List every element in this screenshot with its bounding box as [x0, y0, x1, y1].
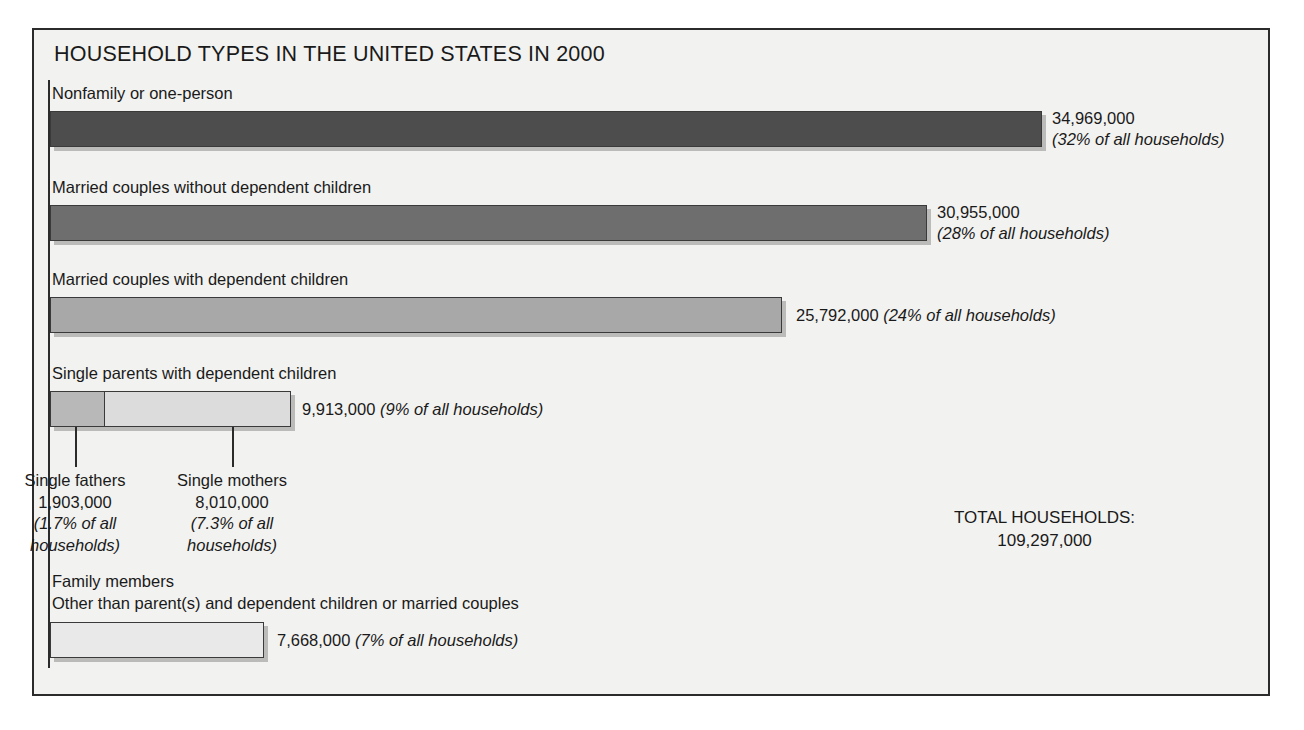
sub-label-single-fathers-percent-2: households) [0, 535, 150, 557]
bar-segment-single-mothers [105, 392, 290, 426]
bar-value-married-with-children: 25,792,000 (24% of all households) [796, 305, 1056, 326]
total-households-value: 109,297,000 [954, 529, 1135, 552]
bar-value-percent-single-parents: (9% of all households) [380, 400, 543, 418]
bar-single-parents [50, 391, 291, 427]
sub-label-single-mothers-value: 8,010,000 [157, 492, 307, 514]
bar-value-number-single-parents: 9,913,000 [302, 400, 375, 418]
sub-label-single-mothers-percent-1: (7.3% of all [157, 513, 307, 535]
leader-line-single-fathers [75, 427, 77, 467]
bar-value-percent-nonfamily: (32% of all households) [1052, 129, 1224, 150]
sub-label-single-fathers-value: 1,903,000 [0, 492, 150, 514]
bar-value-number-married-with-children: 25,792,000 [796, 306, 879, 324]
leader-line-single-mothers [232, 427, 234, 467]
bar-label-single-parents: Single parents with dependent children [52, 364, 336, 383]
page-title: HOUSEHOLD TYPES IN THE UNITED STATES IN … [54, 42, 605, 67]
bar-value-percent-family-members: (7% of all households) [355, 631, 518, 649]
bar-label-family-members: Family members Other than parent(s) and … [52, 570, 519, 614]
bar-value-percent-married-without-children: (28% of all households) [937, 223, 1109, 244]
bar-married-with-children [50, 297, 782, 333]
sub-label-single-mothers: Single mothers 8,010,000 (7.3% of all ho… [157, 470, 307, 556]
sub-label-single-fathers-percent-1: (1.7% of all [0, 513, 150, 535]
bar-family-members [50, 622, 264, 658]
bar-nonfamily [50, 111, 1042, 147]
bar-value-number-family-members: 7,668,000 [277, 631, 350, 649]
bar-value-family-members: 7,668,000 (7% of all households) [277, 630, 518, 651]
bar-label-family-members-line-2: Other than parent(s) and dependent child… [52, 592, 519, 614]
sub-label-single-fathers-name: Single fathers [0, 470, 150, 492]
sub-label-single-mothers-percent-2: households) [157, 535, 307, 557]
sub-label-single-mothers-name: Single mothers [157, 470, 307, 492]
bar-value-number-married-without-children: 30,955,000 [937, 202, 1109, 223]
bar-value-percent-married-with-children: (24% of all households) [883, 306, 1055, 324]
chart-page: HOUSEHOLD TYPES IN THE UNITED STATES IN … [0, 0, 1304, 730]
bar-label-married-with-children: Married couples with dependent children [52, 270, 348, 289]
bar-label-family-members-line-1: Family members [52, 570, 519, 592]
bar-value-married-without-children: 30,955,000 (28% of all households) [937, 202, 1109, 244]
bar-value-nonfamily: 34,969,000 (32% of all households) [1052, 108, 1224, 150]
total-households-caption: TOTAL HOUSEHOLDS: [954, 506, 1135, 529]
bar-label-married-without-children: Married couples without dependent childr… [52, 178, 371, 197]
bar-label-nonfamily: Nonfamily or one-person [52, 84, 233, 103]
total-households-annotation: TOTAL HOUSEHOLDS: 109,297,000 [954, 506, 1135, 552]
bar-value-single-parents: 9,913,000 (9% of all households) [302, 399, 543, 420]
bar-married-without-children [50, 205, 927, 241]
vertical-axis-line [48, 80, 50, 668]
sub-label-single-fathers: Single fathers 1,903,000 (1.7% of all ho… [0, 470, 150, 556]
chart-frame: HOUSEHOLD TYPES IN THE UNITED STATES IN … [32, 28, 1270, 696]
bar-segment-single-fathers [51, 392, 105, 426]
bar-value-number-nonfamily: 34,969,000 [1052, 108, 1224, 129]
